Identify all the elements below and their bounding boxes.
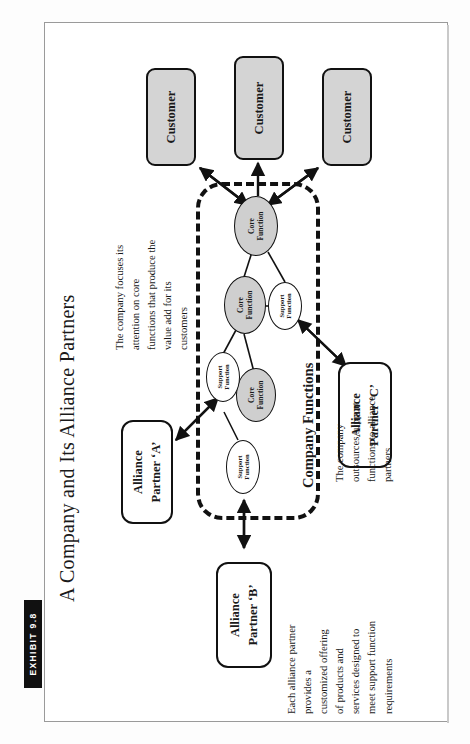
core-function-2[interactable]: Core Function	[224, 276, 266, 334]
alliance-partner-b-box[interactable]: Alliance Partner ‘B’	[216, 562, 272, 668]
support-function-2-label: Support Function	[216, 364, 231, 389]
alliance-partner-a-label: Alliance Partner ‘A’	[129, 442, 165, 503]
note-partner-offering: Each alliance partner provides a customi…	[284, 554, 397, 714]
core-function-1[interactable]: Core Function	[234, 196, 278, 256]
core-function-2-label: Core Function	[237, 290, 254, 319]
customer-box-1-label: Customer	[164, 91, 179, 144]
note-outsourcing: The company outsources support functions…	[332, 342, 396, 482]
support-function-3[interactable]: Support Function	[226, 440, 260, 494]
core-function-1-label: Core Function	[248, 211, 265, 240]
support-function-1-label: Support Function	[278, 293, 293, 318]
company-functions-label: Company Functions	[300, 363, 317, 488]
note-core-focus: The company focuses its attention on cor…	[112, 175, 192, 350]
customer-box-2[interactable]: Customer	[234, 56, 284, 160]
alliance-partner-b-label: Alliance Partner ‘B’	[226, 584, 262, 645]
customer-box-1[interactable]: Customer	[146, 68, 196, 166]
support-function-3-label: Support Function	[236, 454, 251, 479]
customer-box-3[interactable]: Customer	[322, 68, 372, 166]
support-function-2[interactable]: Support Function	[206, 352, 240, 402]
core-function-3-label: Core Function	[248, 380, 265, 409]
customer-box-3-label: Customer	[340, 91, 355, 144]
alliance-partner-a-box[interactable]: Alliance Partner ‘A’	[121, 420, 173, 524]
customer-box-2-label: Customer	[252, 82, 267, 135]
core-function-3[interactable]: Core Function	[236, 368, 276, 422]
support-function-1[interactable]: Support Function	[268, 282, 302, 330]
